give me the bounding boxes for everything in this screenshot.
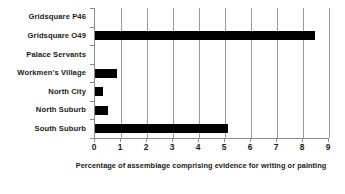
bar-south-suburb bbox=[95, 124, 228, 133]
bar-workmens-village bbox=[95, 69, 117, 78]
y-axis-label-workmens-village: Workmen's Village bbox=[0, 64, 90, 83]
x-axis-tick-label: 6 bbox=[248, 143, 253, 151]
x-axis-tick-label: 9 bbox=[326, 143, 331, 151]
x-axis-tick-labels: 0123456789 bbox=[94, 143, 328, 155]
x-axis-tick-label: 8 bbox=[300, 143, 305, 151]
bar-gridsquare-o49 bbox=[95, 31, 315, 40]
y-axis-label-gridsquare-o49: Gridsquare O49 bbox=[0, 27, 90, 46]
bar-slot bbox=[95, 8, 328, 27]
bar-slot bbox=[95, 45, 328, 64]
plot-area bbox=[94, 8, 328, 138]
bar-north-suburb bbox=[95, 106, 108, 115]
bar-slot bbox=[95, 101, 328, 120]
bar-north-city bbox=[95, 87, 103, 96]
y-axis-label-north-city: North City bbox=[0, 82, 90, 101]
bar-slot bbox=[95, 82, 328, 101]
bar-chart: Gridsquare P46 Gridsquare O49 Palace Ser… bbox=[0, 0, 345, 194]
x-axis-tick-label: 3 bbox=[170, 143, 175, 151]
x-axis-title: Percentage of assemblage comprising evid… bbox=[62, 161, 340, 171]
y-axis-category-labels: Gridsquare P46 Gridsquare O49 Palace Ser… bbox=[0, 8, 90, 138]
y-axis-label-palace-servants: Palace Servants bbox=[0, 45, 90, 64]
x-axis-tick-label: 5 bbox=[222, 143, 227, 151]
gridline bbox=[329, 8, 330, 138]
bar-slot bbox=[95, 64, 328, 83]
x-axis-tick-label: 2 bbox=[144, 143, 149, 151]
bar-slot bbox=[95, 27, 328, 46]
x-axis-tick-label: 0 bbox=[92, 143, 97, 151]
y-axis-label-south-suburb: South Suburb bbox=[0, 119, 90, 138]
x-axis-tick-label: 4 bbox=[196, 143, 201, 151]
y-axis-label-north-suburb: North Suburb bbox=[0, 101, 90, 120]
x-axis-tick-label: 7 bbox=[274, 143, 279, 151]
bar-slot bbox=[95, 119, 328, 138]
x-axis-tick-label: 1 bbox=[118, 143, 123, 151]
y-axis-label-gridsquare-p46: Gridsquare P46 bbox=[0, 8, 90, 27]
bar-series bbox=[95, 8, 328, 138]
